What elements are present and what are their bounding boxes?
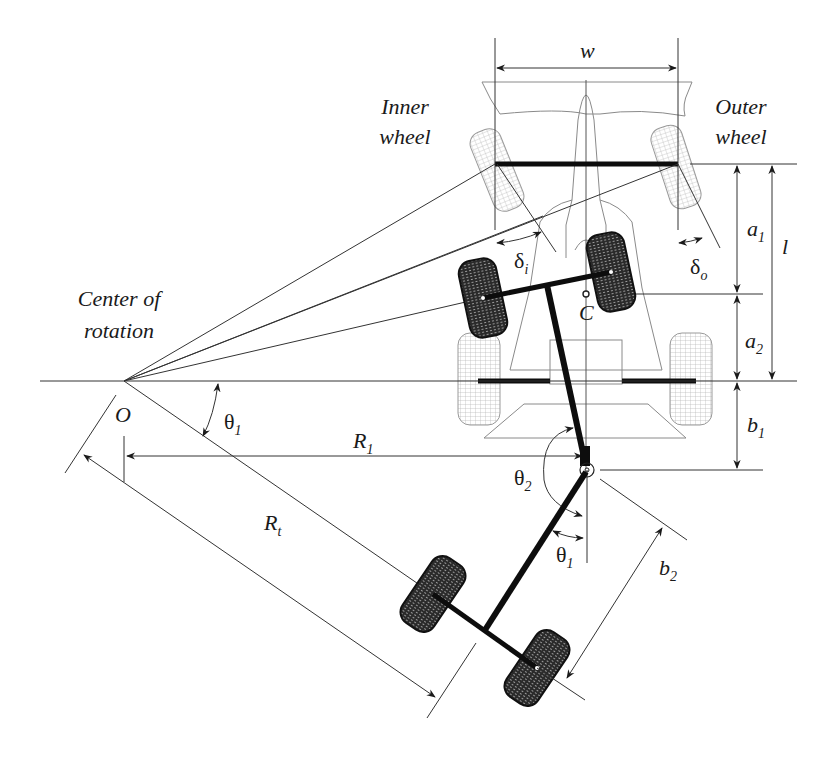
wheelbase-label: l — [782, 236, 788, 258]
theta1-origin-sub: 1 — [235, 423, 242, 438]
inner-wheel-label-line1: Inner — [370, 96, 440, 118]
center-label-line2: rotation — [56, 320, 182, 342]
a1-label: a1 — [747, 218, 765, 240]
delta-o-sub: o — [700, 268, 707, 283]
R1-label: R1 — [353, 430, 373, 452]
b1-label: b1 — [747, 414, 765, 436]
center-of-rotation-label: Center of rotation — [56, 288, 182, 342]
theta2-sub: 2 — [525, 479, 532, 494]
b2-label: b2 — [659, 557, 677, 579]
Rt-label: Rt — [264, 512, 281, 534]
theta1-arc-hitch — [553, 531, 583, 538]
b1-base: b — [747, 412, 758, 437]
delta-o-base: δ — [690, 254, 700, 279]
theta1-hitch-label: θ1 — [556, 544, 574, 566]
track-width-label: w — [580, 40, 595, 62]
theta1-arc-origin — [203, 384, 218, 436]
mass-center-marker — [583, 291, 589, 297]
theta2-base: θ — [514, 465, 525, 490]
R1-sub: 1 — [366, 442, 373, 457]
outer-wheel-label: Outer wheel — [706, 96, 776, 148]
b2-sub: 2 — [670, 569, 677, 584]
outer-wheel-label-line2: wheel — [706, 126, 776, 148]
Rt-sub: t — [277, 524, 281, 539]
origin-label: O — [115, 404, 131, 426]
delta-i-label: δi — [514, 250, 528, 272]
inner-wheel-label: Inner wheel — [370, 96, 440, 148]
Rt-dimension — [65, 395, 476, 718]
theta1-origin-label: θ1 — [224, 411, 242, 433]
a1-base: a — [747, 216, 758, 241]
a2-sub: 2 — [756, 342, 763, 357]
a2-label: a2 — [745, 330, 763, 352]
R1-base: R — [353, 428, 366, 453]
mass-center-label: C — [579, 302, 594, 324]
steering-kinematics-diagram: Inner wheel Outer wheel Center of rotati… — [0, 0, 840, 763]
delta-i-base: δ — [514, 248, 524, 273]
theta2-label: θ2 — [514, 467, 532, 489]
theta1-hitch-base: θ — [556, 542, 567, 567]
outer-wheel-label-line1: Outer — [706, 96, 776, 118]
delta-i-sub: i — [524, 262, 528, 277]
delta-o-label: δo — [690, 256, 707, 278]
a1-sub: 1 — [758, 230, 765, 245]
theta1-origin-base: θ — [224, 409, 235, 434]
trailer-axle — [433, 594, 537, 668]
inner-wheel-label-line2: wheel — [370, 126, 440, 148]
a2-base: a — [745, 328, 756, 353]
inner-wheel-ghost — [466, 125, 527, 215]
theta1-hitch-sub: 1 — [567, 556, 574, 571]
Rt-base: R — [264, 510, 277, 535]
b1-sub: 1 — [758, 426, 765, 441]
b2-base: b — [659, 555, 670, 580]
rotation-rays — [40, 164, 678, 630]
center-label-line1: Center of — [56, 288, 182, 310]
